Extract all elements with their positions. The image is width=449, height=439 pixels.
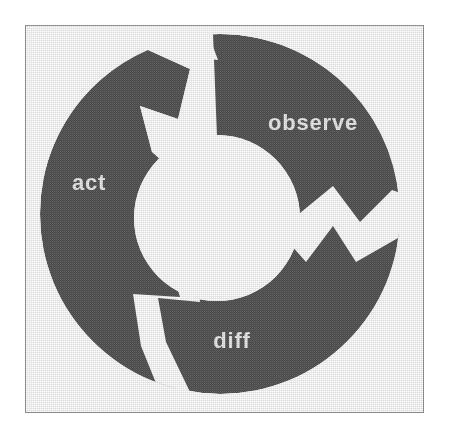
figure-root: observe diff act: [0, 0, 449, 439]
label-act: act: [72, 170, 106, 195]
label-observe: observe: [268, 110, 358, 135]
label-diff: diff: [213, 328, 250, 353]
center-hub: [134, 135, 300, 301]
cycle-diagram: observe diff act: [0, 0, 449, 439]
